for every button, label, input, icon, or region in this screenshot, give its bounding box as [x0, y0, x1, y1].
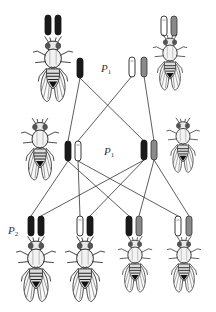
fly-p2-4 — [167, 236, 201, 292]
p1-right-chromosomes — [141, 140, 157, 160]
label-p1-middle: P1 — [104, 146, 114, 159]
parent-right-chromosomes — [161, 16, 177, 36]
fly-p1-left — [21, 118, 59, 180]
label-p1-top: P1 — [101, 63, 111, 76]
fly-p2-2 — [65, 236, 105, 301]
label-p2-bottom: P2 — [8, 225, 18, 238]
fly-p1-right — [166, 118, 199, 173]
fly-parent-left — [33, 36, 73, 101]
p2-chromosomes — [28, 216, 192, 236]
p1-gametes — [77, 57, 147, 78]
fly-p2-1 — [16, 236, 56, 301]
parent-left-chromosomes — [45, 15, 61, 35]
fly-parent-right — [153, 34, 187, 90]
fly-p2-3 — [118, 236, 152, 292]
p1-left-chromosomes — [65, 141, 81, 161]
